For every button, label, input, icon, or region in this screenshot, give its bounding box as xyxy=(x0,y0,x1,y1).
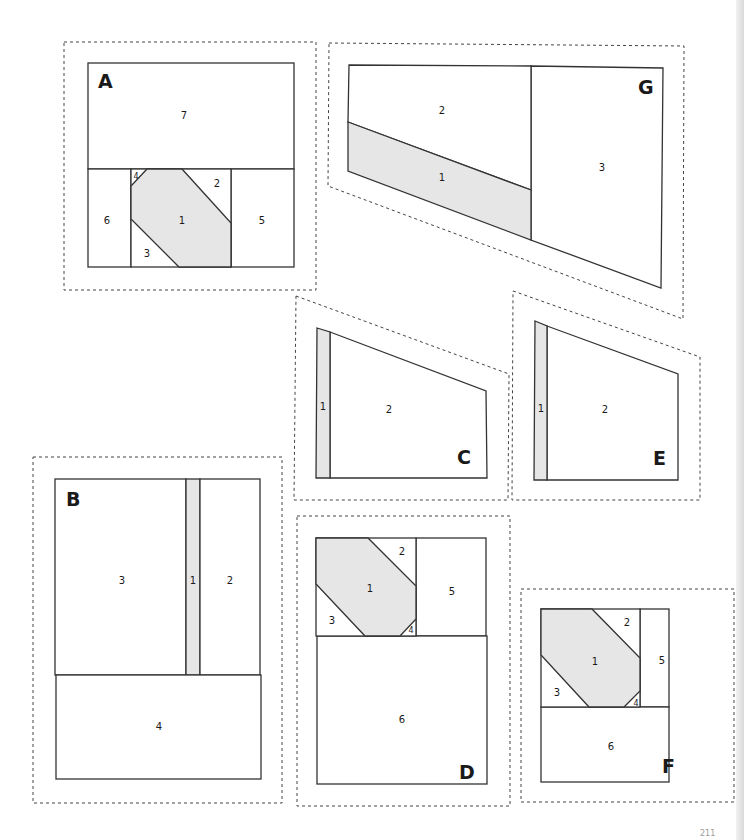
page-edge xyxy=(736,0,744,840)
block-a-label-7: 7 xyxy=(181,110,187,121)
block-e-label-1: 1 xyxy=(538,403,544,414)
block-b-letter: B xyxy=(66,488,80,510)
page-number: 211 xyxy=(700,829,715,838)
block-a-label-5: 5 xyxy=(259,215,265,226)
block-b-label-1: 1 xyxy=(190,575,196,586)
block-a-label-1: 1 xyxy=(179,215,185,226)
block-f: F 1 2 3 4 5 6 xyxy=(521,589,734,802)
block-b-label-3: 3 xyxy=(119,575,125,586)
block-d-letter: D xyxy=(459,761,475,783)
block-d-label-1: 1 xyxy=(367,583,373,594)
block-g-piece-3 xyxy=(531,66,663,288)
block-c: C 1 2 xyxy=(294,296,509,500)
block-e-piece-1 xyxy=(534,321,547,480)
block-c-letter: C xyxy=(457,446,471,468)
block-a-label-3: 3 xyxy=(144,248,150,259)
block-d: D 1 2 3 4 5 6 xyxy=(297,516,510,806)
block-f-label-4: 4 xyxy=(633,699,638,708)
block-a-letter: A xyxy=(98,70,113,92)
block-a-label-2: 2 xyxy=(214,178,220,189)
block-g-letter: G xyxy=(638,76,654,98)
block-g: G 2 1 3 xyxy=(328,43,684,319)
block-f-letter: F xyxy=(662,755,675,777)
block-e: E 1 2 xyxy=(512,291,700,500)
block-f-piece-6 xyxy=(541,707,669,782)
block-g-label-3: 3 xyxy=(599,162,605,173)
block-c-label-2: 2 xyxy=(386,404,392,415)
block-a-label-6: 6 xyxy=(104,215,110,226)
block-a-piece-7 xyxy=(88,63,294,169)
block-d-label-3: 3 xyxy=(329,615,335,626)
block-c-label-1: 1 xyxy=(320,401,326,412)
block-e-letter: E xyxy=(653,447,666,469)
block-f-label-3: 3 xyxy=(554,687,560,698)
block-d-label-6: 6 xyxy=(399,714,405,725)
block-f-label-1: 1 xyxy=(592,656,598,667)
block-d-label-5: 5 xyxy=(449,586,455,597)
block-e-label-2: 2 xyxy=(602,404,608,415)
block-f-label-6: 6 xyxy=(608,741,614,752)
block-b-label-4: 4 xyxy=(156,721,162,732)
block-b-label-2: 2 xyxy=(227,575,233,586)
block-a: A 7 6 1 2 3 4 5 xyxy=(64,42,316,290)
block-a-label-4: 4 xyxy=(133,172,138,181)
block-d-label-2: 2 xyxy=(399,546,405,557)
block-d-label-4: 4 xyxy=(408,626,413,635)
block-f-label-5: 5 xyxy=(659,655,665,666)
foundation-piecing-templates-page: A 7 6 1 2 3 4 5 G 2 1 3 C 1 2 E 1 2 xyxy=(0,0,744,840)
block-b: B 3 1 2 4 xyxy=(33,457,282,803)
block-g-label-2: 2 xyxy=(439,105,445,116)
block-f-label-2: 2 xyxy=(624,617,630,628)
block-g-label-1: 1 xyxy=(439,172,445,183)
